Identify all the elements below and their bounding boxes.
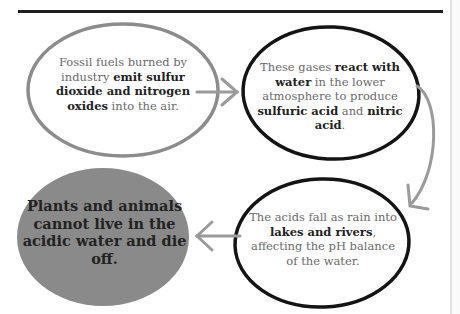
node-rainfall-text: The acids fall as rain into lakes and ri… [248,210,398,268]
emphasis-text: Plants and animals cannot live in the ac… [23,197,187,267]
body-text: and [338,104,367,118]
body-text: into the air. [108,99,179,113]
node-outcome-text: Plants and animals cannot live in the ac… [22,197,187,267]
node-emission-text: Fossil fuels burned by industry emit sul… [48,55,198,113]
arrow-reaction-to-rainfall [408,86,434,209]
body-text: . [342,118,346,132]
emphasis-text: lakes and rivers [270,225,372,239]
node-reaction-text: These gases react with water in the lowe… [255,60,405,133]
body-text: The acids fall as rain into [249,210,397,224]
emphasis-text: sulfuric acid [257,104,338,118]
body-text: These gases [260,60,335,74]
